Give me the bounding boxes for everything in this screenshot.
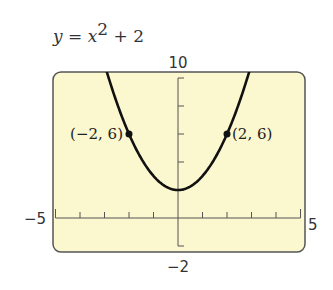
equation-title: y = x2 + 2 bbox=[52, 19, 144, 46]
x-min-label: −5 bbox=[24, 210, 46, 228]
y-min-label: −2 bbox=[167, 258, 189, 276]
point-marker bbox=[126, 131, 133, 138]
point-label: (2, 6) bbox=[232, 125, 272, 143]
y-max-label: 10 bbox=[168, 54, 187, 72]
point-marker bbox=[224, 131, 231, 138]
x-max-label: 5 bbox=[308, 216, 318, 234]
graph-figure: y = x2 + 2 10 (−2, 6)(2, 6) −5 5 −2 bbox=[0, 0, 333, 290]
point-label: (−2, 6) bbox=[70, 125, 123, 143]
